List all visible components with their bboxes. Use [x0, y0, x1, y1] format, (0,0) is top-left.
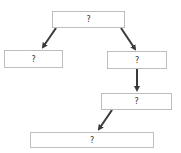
node-right: ? — [107, 51, 167, 69]
node-right-child-label: ? — [134, 97, 138, 106]
node-right-child: ? — [101, 93, 172, 110]
arrow-root-to-right — [121, 28, 135, 49]
node-bottom: ? — [30, 132, 154, 148]
node-bottom-label: ? — [90, 136, 94, 145]
node-left-label: ? — [31, 55, 35, 64]
node-left: ? — [4, 50, 63, 68]
node-root: ? — [52, 11, 125, 28]
node-root-label: ? — [86, 15, 90, 24]
node-right-label: ? — [135, 56, 139, 65]
arrow-root-to-left — [43, 28, 56, 47]
arrow-right-child-to-bottom — [99, 110, 112, 129]
